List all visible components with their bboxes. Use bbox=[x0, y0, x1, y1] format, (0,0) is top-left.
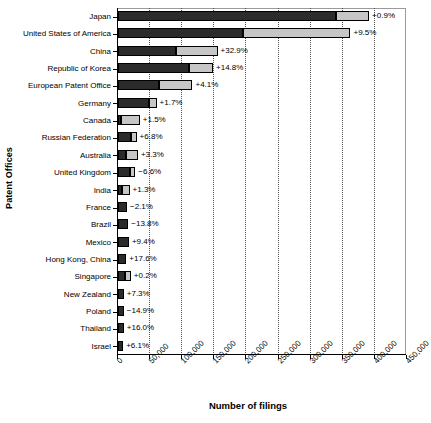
bar-segment-resident[interactable] bbox=[118, 167, 130, 177]
bar-row[interactable]: +17.6% bbox=[118, 251, 407, 268]
bar-value-label: +9.4% bbox=[132, 236, 155, 248]
bar-row[interactable]: +0.9% bbox=[118, 8, 407, 25]
bar-segment-nonresident[interactable] bbox=[126, 150, 138, 160]
bar-segment-resident[interactable] bbox=[118, 341, 123, 351]
y-axis-line bbox=[117, 8, 118, 355]
bar-row[interactable]: +7.3% bbox=[118, 286, 407, 303]
x-axis-tick-label: 450,000 bbox=[404, 339, 431, 366]
bar-segment-resident[interactable] bbox=[118, 219, 128, 229]
bar-segment-nonresident[interactable] bbox=[125, 271, 131, 281]
bar-segment-resident[interactable] bbox=[118, 323, 124, 333]
category-label: European Patent Office bbox=[28, 77, 111, 94]
bar-segment-resident[interactable] bbox=[118, 289, 124, 299]
category-label: United Kingdom bbox=[54, 164, 111, 181]
bar-value-label: −6.6% bbox=[138, 166, 161, 178]
category-label: Brazil bbox=[91, 216, 111, 233]
bar-value-label: −13.8% bbox=[131, 218, 158, 230]
bar-value-label: +1.3% bbox=[133, 184, 156, 196]
plot-area: +0.9%+9.5%+32.9%+14.8%+4.1%+1.7%+1.5%+6.… bbox=[117, 8, 406, 355]
bar-value-label: +16.0% bbox=[127, 322, 154, 334]
bar-segment-nonresident[interactable] bbox=[176, 46, 218, 56]
bar-segment-nonresident[interactable] bbox=[122, 185, 130, 195]
bar-segment-resident[interactable] bbox=[118, 28, 243, 38]
bar-value-label: +6.8% bbox=[140, 131, 163, 143]
bar-segment-resident[interactable] bbox=[118, 98, 149, 108]
bar-segment-nonresident[interactable] bbox=[336, 11, 369, 21]
bar-segment-nonresident[interactable] bbox=[131, 132, 136, 142]
bar-value-label: +1.5% bbox=[143, 114, 166, 126]
category-label: Singapore bbox=[75, 268, 111, 285]
bar-segment-resident[interactable] bbox=[118, 46, 176, 56]
bar-segment-resident[interactable] bbox=[118, 271, 125, 281]
bar-value-label: +17.6% bbox=[129, 253, 156, 265]
category-label: Israel bbox=[91, 338, 111, 355]
category-label: Poland bbox=[86, 303, 111, 320]
bar-segment-nonresident[interactable] bbox=[189, 63, 213, 73]
bar-row[interactable]: −14.9% bbox=[118, 303, 407, 320]
bar-row[interactable]: +16.0% bbox=[118, 320, 407, 337]
x-axis-tick-label: 0 bbox=[115, 356, 125, 366]
bar-segment-nonresident[interactable] bbox=[159, 80, 192, 90]
category-label: New Zealand bbox=[64, 286, 111, 303]
y-axis-title-label: Patent Offices bbox=[4, 147, 14, 209]
bar-segment-resident[interactable] bbox=[118, 63, 189, 73]
category-label: Republic of Korea bbox=[47, 60, 111, 77]
category-label: India bbox=[94, 182, 111, 199]
category-label: France bbox=[86, 199, 111, 216]
y-axis-title: Patent Offices bbox=[2, 0, 16, 355]
bar-row[interactable]: −6.6% bbox=[118, 164, 407, 181]
x-axis-tick-labels: 050,000100,000150,000200,000250,000300,0… bbox=[117, 359, 417, 399]
bar-value-label: −14.9% bbox=[127, 305, 154, 317]
category-label: Hong Kong, China bbox=[46, 251, 111, 268]
bar-segment-resident[interactable] bbox=[118, 11, 336, 21]
bar-row[interactable]: +9.4% bbox=[118, 234, 407, 251]
category-label: Russian Federation bbox=[42, 129, 111, 146]
bar-segment-resident[interactable] bbox=[118, 132, 131, 142]
bar-row[interactable]: +1.7% bbox=[118, 95, 407, 112]
bar-value-label: +6.1% bbox=[126, 340, 149, 352]
x-axis-title: Number of filings bbox=[0, 400, 416, 411]
category-label: Mexico bbox=[86, 234, 111, 251]
bar-segment-nonresident[interactable] bbox=[243, 28, 350, 38]
bar-row[interactable]: +4.1% bbox=[118, 77, 407, 94]
bar-row[interactable]: +32.9% bbox=[118, 43, 407, 60]
category-label: China bbox=[90, 43, 111, 60]
bar-value-label: +7.3% bbox=[127, 288, 150, 300]
bar-value-label: +0.2% bbox=[134, 270, 157, 282]
bar-row[interactable]: +14.8% bbox=[118, 60, 407, 77]
bar-segment-nonresident[interactable] bbox=[130, 167, 135, 177]
category-label: United States of America bbox=[23, 25, 111, 42]
bar-row[interactable]: +1.5% bbox=[118, 112, 407, 129]
bar-segment-nonresident[interactable] bbox=[121, 115, 140, 125]
bar-segment-resident[interactable] bbox=[118, 254, 126, 264]
bar-row[interactable]: +6.8% bbox=[118, 129, 407, 146]
bar-segment-resident[interactable] bbox=[118, 202, 127, 212]
category-label: Thailand bbox=[80, 320, 111, 337]
bar-row[interactable]: +9.5% bbox=[118, 25, 407, 42]
x-axis-title-label: Number of filings bbox=[129, 400, 287, 411]
bar-value-label: +3.3% bbox=[141, 149, 164, 161]
category-label: Australia bbox=[80, 147, 111, 164]
bar-segment-resident[interactable] bbox=[118, 80, 159, 90]
bar-segment-nonresident[interactable] bbox=[149, 98, 157, 108]
bar-segment-resident[interactable] bbox=[118, 306, 124, 316]
bar-value-label: +32.9% bbox=[221, 45, 248, 57]
bar-row[interactable]: −2.1% bbox=[118, 199, 407, 216]
bar-value-label: +1.7% bbox=[160, 97, 183, 109]
bar-value-label: +0.9% bbox=[372, 10, 395, 22]
bar-row[interactable]: −13.8% bbox=[118, 216, 407, 233]
bar-row[interactable]: +3.3% bbox=[118, 147, 407, 164]
bar-row[interactable]: +0.2% bbox=[118, 268, 407, 285]
category-label: Japan bbox=[89, 8, 111, 25]
bar-value-label: +4.1% bbox=[195, 79, 218, 91]
bar-value-label: +9.5% bbox=[353, 27, 376, 39]
bar-value-label: −2.1% bbox=[130, 201, 153, 213]
category-axis-labels: JapanUnited States of AmericaChinaRepubl… bbox=[16, 8, 114, 355]
bar-row[interactable]: +1.3% bbox=[118, 182, 407, 199]
category-label: Germany bbox=[78, 95, 111, 112]
category-label: Canada bbox=[83, 112, 111, 129]
bar-segment-resident[interactable] bbox=[118, 237, 129, 247]
bar-segment-resident[interactable] bbox=[118, 150, 126, 160]
bar-value-label: +14.8% bbox=[216, 62, 243, 74]
